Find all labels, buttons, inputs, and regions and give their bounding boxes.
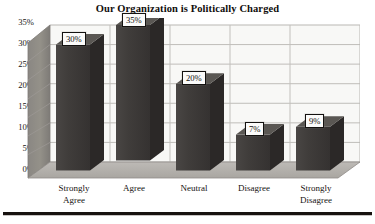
x-tick-line: Strongly: [278, 183, 354, 195]
data-label-neutral: 20%: [182, 71, 206, 85]
x-tick-label-strongly-disagree: Strongly Disagree: [278, 183, 354, 206]
bar-strongly-agree: [56, 34, 104, 171]
bottom-divider-shadow: [3, 215, 372, 216]
bar-neutral: [176, 73, 224, 170]
data-label-agree: 35%: [122, 13, 146, 27]
chart-left-wall: [28, 25, 50, 178]
chart-title: Our Organization is Politically Charged: [0, 3, 375, 14]
data-label-strongly-disagree: 9%: [305, 114, 324, 128]
figure-canvas: Our Organization is Politically Charged …: [0, 0, 375, 224]
data-label-strongly-agree: 30%: [62, 32, 86, 46]
plot-area: 30% 35% 20% 7% 9%: [24, 18, 360, 182]
x-tick-line: Disagree: [278, 195, 354, 207]
x-tick-line: Agree: [38, 195, 110, 207]
bar-agree: [116, 18, 164, 161]
data-label-disagree: 7%: [245, 122, 264, 136]
